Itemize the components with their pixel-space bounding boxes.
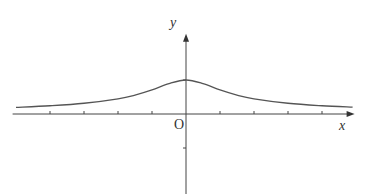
x-axis-label: x bbox=[339, 118, 345, 134]
axes bbox=[13, 34, 355, 194]
function-graph bbox=[0, 0, 369, 194]
y-axis-label: y bbox=[170, 15, 176, 31]
function-curve bbox=[16, 80, 353, 107]
origin-label: O bbox=[174, 117, 184, 133]
